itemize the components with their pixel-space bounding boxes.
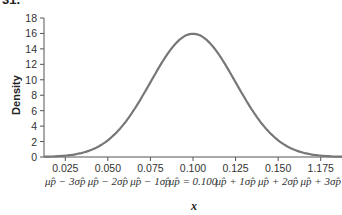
- y-tick-label: 16: [25, 27, 37, 39]
- density-curve: [44, 34, 342, 157]
- y-tick-label: 2: [31, 136, 37, 148]
- x-tick-label: 0.125: [222, 162, 248, 174]
- axes: 0246810121416180.025μp̂ − 3σp̂0.050μp̂ −…: [25, 12, 342, 187]
- x-sigma-label: μp̂ + 3σp̂: [300, 175, 342, 187]
- x-sigma-label: μp̂ + 1σp̂: [214, 175, 256, 187]
- x-tick-label: 0.050: [95, 162, 121, 174]
- y-tick-label: 10: [25, 74, 37, 86]
- y-tick-label: 18: [25, 12, 37, 24]
- x-axis-label: x: [190, 199, 197, 213]
- x-tick-label: 0.100: [180, 162, 206, 174]
- x-sigma-label: μp̂ − 3σp̂: [44, 175, 86, 187]
- y-tick-label: 0: [31, 151, 37, 163]
- normal-density-chart: 0246810121416180.025μp̂ − 3σp̂0.050μp̂ −…: [0, 0, 342, 215]
- y-axis-label: Density: [10, 74, 22, 115]
- x-sigma-label: μp̂ + 2σp̂: [257, 175, 299, 187]
- x-tick-label: 0.075: [137, 162, 163, 174]
- y-tick-label: 8: [31, 89, 37, 101]
- x-sigma-label: μp̂ − 2σp̂: [87, 175, 129, 187]
- y-tick-label: 12: [25, 58, 37, 70]
- x-tick-label: 0.025: [52, 162, 78, 174]
- x-tick-label: 0.150: [265, 162, 291, 174]
- y-tick-label: 4: [31, 120, 37, 132]
- y-tick-label: 6: [31, 105, 37, 117]
- x-tick-label: 1.175: [308, 162, 334, 174]
- x-sigma-label: μp̂ − 1σp̂: [129, 175, 171, 187]
- y-tick-label: 14: [25, 43, 37, 55]
- x-sigma-label: μp̂ = 0.100: [168, 175, 218, 187]
